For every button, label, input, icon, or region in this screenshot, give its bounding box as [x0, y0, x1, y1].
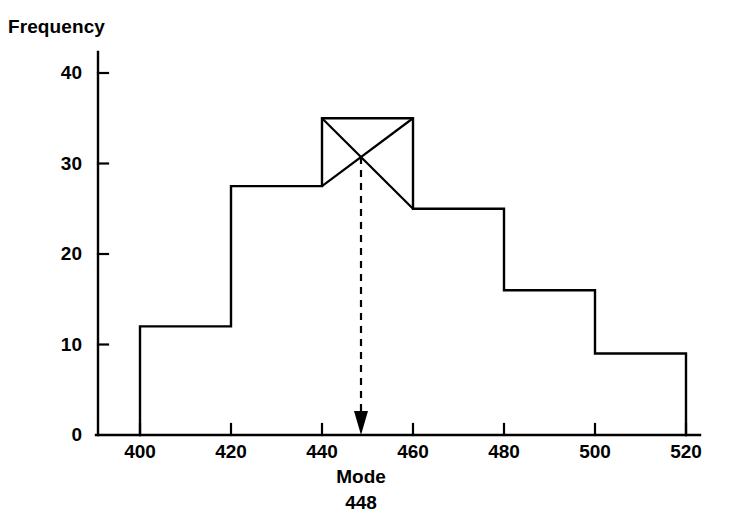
construction-line_a — [322, 118, 413, 209]
x-tick-label-480: 480 — [488, 441, 520, 463]
x-tick-label-460: 460 — [397, 441, 429, 463]
x-tick-label-420: 420 — [215, 441, 247, 463]
mode-arrowhead — [354, 411, 368, 435]
y-tick-label-40: 40 — [30, 62, 82, 84]
y-tick-label-10: 10 — [30, 334, 82, 356]
mode-construction-lines — [322, 118, 413, 209]
x-tick-label-520: 520 — [670, 441, 702, 463]
y-tick-label-20: 20 — [30, 243, 82, 265]
plot-area — [0, 0, 751, 532]
y-axis-ticks — [98, 73, 108, 345]
mode-annotation-label: Mode — [336, 466, 386, 488]
mode-annotation-value: 448 — [345, 492, 377, 514]
x-tick-label-500: 500 — [579, 441, 611, 463]
construction-line_b — [322, 118, 413, 186]
histogram-figure: Frequency 010203040 40042044046048050052… — [0, 0, 751, 532]
x-tick-label-440: 440 — [306, 441, 338, 463]
y-tick-label-0: 0 — [30, 424, 82, 446]
y-tick-label-30: 30 — [30, 153, 82, 175]
axes — [96, 52, 700, 435]
x-axis-ticks — [140, 424, 686, 435]
x-tick-label-400: 400 — [124, 441, 156, 463]
histogram-bars — [140, 118, 686, 435]
